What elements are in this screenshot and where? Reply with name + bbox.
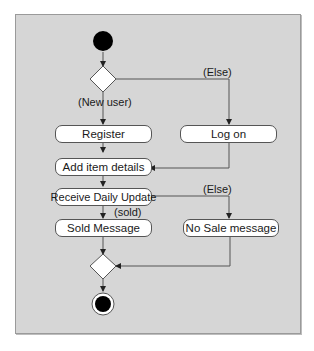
sold-message-node: Sold Message [55, 219, 152, 237]
add-item-node: Add item details [55, 158, 152, 176]
log-on-node: Log on [180, 125, 277, 143]
receive-update-node: Receive Daily Update [55, 188, 152, 206]
guard-new-user: (New user) [78, 96, 132, 108]
decision-node [90, 66, 116, 92]
no-sale-node: No Sale message [183, 219, 279, 237]
guard-sold: (sold) [114, 206, 142, 218]
guard-else-mid: (Else) [203, 183, 232, 195]
merge-node [90, 254, 116, 279]
diagram-connectors [0, 0, 314, 351]
start-node [93, 31, 113, 51]
register-node: Register [55, 125, 152, 143]
guard-else-top: (Else) [203, 66, 232, 78]
